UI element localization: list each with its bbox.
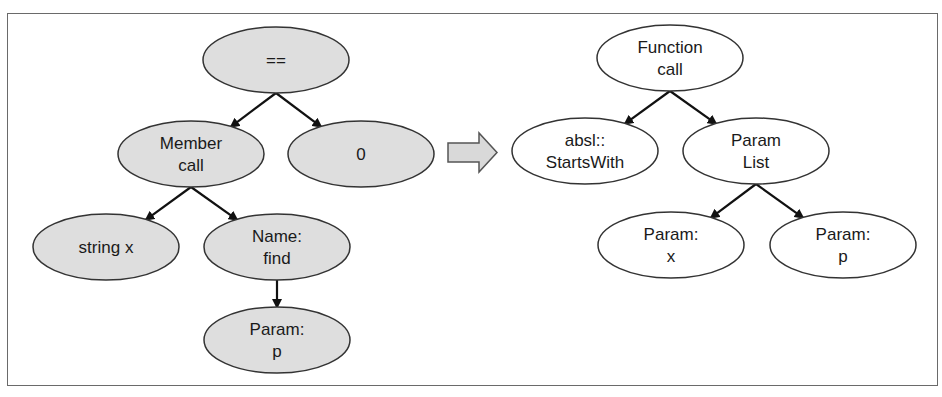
node-zero: 0 [288, 121, 434, 187]
node-ellipse [512, 118, 658, 184]
node-member-call: Membercall [118, 121, 264, 187]
node-ellipse [683, 118, 829, 184]
node-ellipse [204, 307, 350, 373]
node-label: Function [637, 38, 702, 57]
node-label: == [266, 51, 286, 70]
edge-arrow-icon [711, 184, 756, 218]
node-string-x: string x [33, 214, 179, 280]
node-ellipse [770, 212, 916, 278]
before-tree: ==Membercall0string xName:findParam:p [33, 27, 434, 373]
node-ellipse [597, 25, 743, 91]
node-param-list: ParamList [683, 118, 829, 184]
node-param-x: Param:x [598, 212, 744, 278]
node-label: find [263, 249, 290, 268]
node-label: Name: [252, 227, 302, 246]
edge-arrow-icon [231, 93, 276, 127]
after-tree: Functioncallabsl::StartsWithParamListPar… [512, 25, 916, 278]
node-label: Member [160, 134, 223, 153]
edge-arrow-icon [191, 187, 237, 220]
node-label: call [178, 156, 204, 175]
node-label: Param: [250, 320, 305, 339]
edge-arrow-icon [146, 187, 191, 220]
node-label: p [272, 342, 281, 361]
node-ellipse [204, 214, 350, 280]
node-label: string x [79, 238, 134, 257]
node-label: List [743, 153, 770, 172]
node-label: Param [731, 131, 781, 150]
node-label: StartsWith [546, 153, 624, 172]
node-label: 0 [356, 145, 365, 164]
right-arrow-icon [448, 133, 497, 172]
edge-arrow-icon [756, 184, 803, 218]
node-function-call: Functioncall [597, 25, 743, 91]
node-param-p2: Param:p [770, 212, 916, 278]
edge-arrow-icon [670, 91, 716, 124]
ast-transformation-diagram: ==Membercall0string xName:findParam:p Fu… [0, 0, 942, 397]
node-absl-startswith: absl::StartsWith [512, 118, 658, 184]
node-param-p: Param:p [204, 307, 350, 373]
edge-arrow-icon [625, 91, 670, 124]
node-name-find: Name:find [204, 214, 350, 280]
node-label: absl:: [565, 131, 606, 150]
node-label: call [657, 60, 683, 79]
node-eq: == [203, 27, 349, 93]
node-ellipse [118, 121, 264, 187]
edge-arrow-icon [276, 93, 321, 127]
node-ellipse [598, 212, 744, 278]
node-label: Param: [816, 225, 871, 244]
node-label: x [667, 247, 676, 266]
node-label: Param: [644, 225, 699, 244]
node-label: p [838, 247, 847, 266]
